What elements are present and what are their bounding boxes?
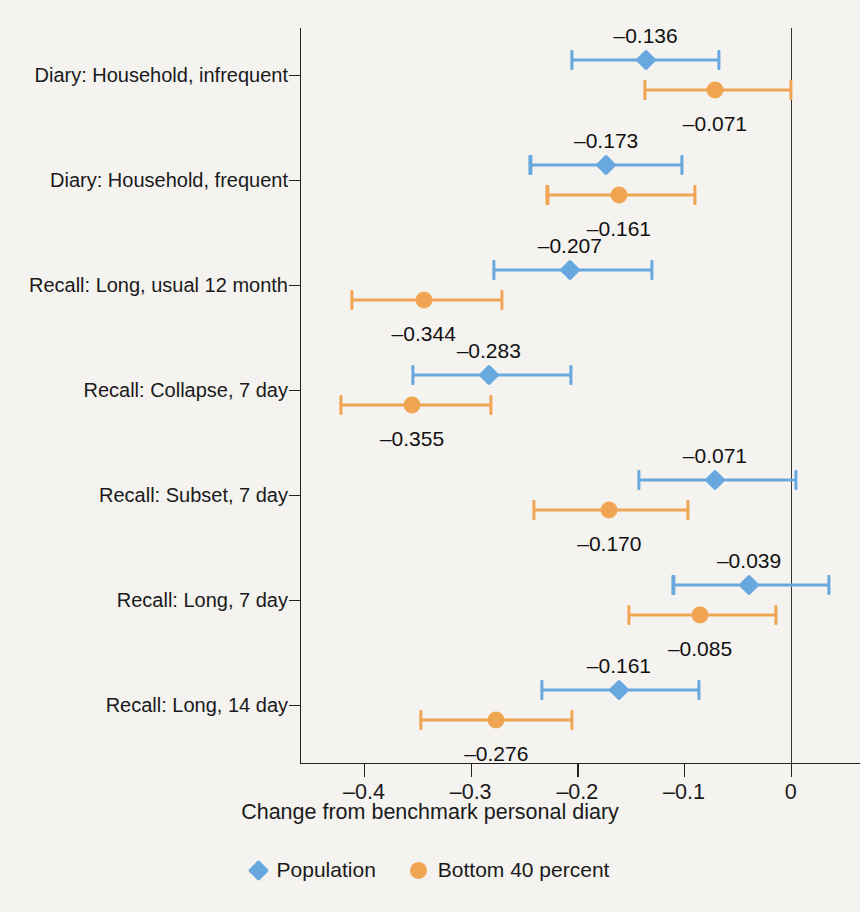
data-point-value-label: –0.071 [683, 444, 747, 468]
data-point-value-label: –0.161 [587, 217, 651, 241]
confidence-interval-cap [718, 50, 721, 70]
data-point-marker[interactable] [478, 364, 499, 385]
confidence-interval-cap [827, 575, 830, 595]
data-point-marker[interactable] [596, 154, 617, 175]
category-label: Diary: Household, infrequent [35, 63, 288, 86]
data-point-marker[interactable] [706, 81, 723, 98]
y-axis-tick [289, 495, 300, 496]
legend-item[interactable]: Population [251, 858, 376, 882]
data-point-marker[interactable] [559, 259, 580, 280]
data-point-value-label: –0.283 [457, 339, 521, 363]
category-label: Recall: Long, usual 12 month [29, 273, 288, 296]
data-point-value-label: –0.173 [574, 129, 638, 153]
data-point-value-label: –0.039 [717, 549, 781, 573]
data-point-value-label: –0.170 [577, 532, 641, 556]
plot-area: –0.4–0.3–0.2–0.10 –0.136–0.173–0.207–0.2… [300, 28, 860, 763]
data-point-marker[interactable] [704, 469, 725, 490]
data-point-marker[interactable] [488, 711, 505, 728]
data-point-marker[interactable] [610, 186, 627, 203]
confidence-interval-cap [643, 80, 646, 100]
data-point-value-label: –0.161 [587, 654, 651, 678]
x-axis-tick [791, 764, 792, 777]
confidence-interval-cap [489, 395, 492, 415]
data-point-marker[interactable] [601, 501, 618, 518]
confidence-interval-cap [680, 155, 683, 175]
data-point-marker[interactable] [635, 49, 656, 70]
category-label: Recall: Long, 14 day [106, 693, 288, 716]
confidence-interval-cap [351, 290, 354, 310]
data-point-marker[interactable] [608, 679, 629, 700]
y-axis-tick [289, 390, 300, 391]
y-axis-tick [289, 180, 300, 181]
confidence-interval-cap [774, 605, 777, 625]
x-axis-tick [471, 764, 472, 777]
data-point-value-label: –0.136 [613, 24, 677, 48]
x-axis-tick [577, 764, 578, 777]
data-point-value-label: –0.071 [683, 112, 747, 136]
confidence-interval-cap [419, 710, 422, 730]
x-axis-line [300, 763, 860, 764]
confidence-interval-cap [529, 155, 532, 175]
y-axis-tick [289, 600, 300, 601]
data-point-value-label: –0.344 [392, 322, 456, 346]
data-point-marker[interactable] [738, 574, 759, 595]
legend-label: Population [277, 858, 376, 882]
category-label: Diary: Household, frequent [50, 168, 288, 191]
confidence-interval-cap [693, 185, 696, 205]
legend-item[interactable]: Bottom 40 percent [410, 858, 610, 882]
y-axis-line [300, 28, 301, 763]
confidence-interval-cap [687, 500, 690, 520]
category-label: Recall: Subset, 7 day [99, 483, 288, 506]
y-axis-tick [289, 285, 300, 286]
confidence-interval-cap [650, 260, 653, 280]
confidence-interval-cap [789, 80, 792, 100]
confidence-interval-cap [570, 50, 573, 70]
confidence-interval-cap [500, 290, 503, 310]
data-point-marker[interactable] [404, 396, 421, 413]
confidence-interval-cap [493, 260, 496, 280]
confidence-interval-cap [794, 470, 797, 490]
forest-plot-figure: –0.4–0.3–0.2–0.10 –0.136–0.173–0.207–0.2… [0, 0, 860, 912]
confidence-interval-cap [697, 680, 700, 700]
x-axis-tick [364, 764, 365, 777]
confidence-interval-cap [569, 365, 572, 385]
data-point-marker[interactable] [415, 291, 432, 308]
confidence-interval-cap [672, 575, 675, 595]
confidence-interval-cap [411, 365, 414, 385]
y-axis-tick [289, 75, 300, 76]
confidence-interval-cap [570, 710, 573, 730]
confidence-interval-cap [546, 185, 549, 205]
y-axis-tick [289, 705, 300, 706]
confidence-interval-cap [339, 395, 342, 415]
x-axis-title: Change from benchmark personal diary [0, 800, 860, 825]
legend-diamond-icon [247, 859, 268, 880]
confidence-interval-cap [532, 500, 535, 520]
legend-label: Bottom 40 percent [438, 858, 610, 882]
category-label: Recall: Long, 7 day [117, 588, 288, 611]
category-label: Recall: Collapse, 7 day [83, 378, 288, 401]
data-point-value-label: –0.276 [464, 742, 528, 766]
confidence-interval-cap [627, 605, 630, 625]
data-point-marker[interactable] [692, 606, 709, 623]
data-point-value-label: –0.085 [668, 637, 732, 661]
zero-reference-line [791, 28, 792, 763]
confidence-interval-cap [541, 680, 544, 700]
confidence-interval-cap [638, 470, 641, 490]
x-axis-tick [684, 764, 685, 777]
legend: PopulationBottom 40 percent [0, 858, 860, 882]
legend-circle-icon [410, 862, 427, 879]
data-point-value-label: –0.355 [380, 427, 444, 451]
